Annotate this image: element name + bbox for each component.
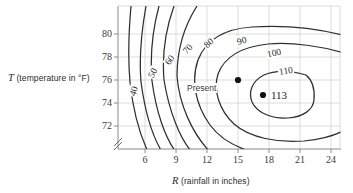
x-tick-label-6: 6 (135, 154, 155, 165)
y-tick-label-74: 74 (94, 97, 112, 108)
x-tick-label-18: 18 (259, 154, 279, 165)
x-axis-units: (rainfall in inches) (179, 176, 250, 186)
x-axis-ticks (145, 149, 331, 153)
y-axis-title: T (temperature in °F) (8, 72, 90, 83)
x-tick-label-21: 21 (290, 154, 310, 165)
y-tick-label-72: 72 (94, 120, 112, 131)
x-axis-title: R (rainfall in inches) (172, 175, 250, 186)
x-tick-label-12: 12 (197, 154, 217, 165)
y-tick-label-78: 78 (94, 51, 112, 62)
x-tick-label-24: 24 (321, 154, 341, 165)
y-axis-ticks (114, 34, 118, 126)
y-tick-label-80: 80 (94, 28, 112, 39)
present-marker-dot (235, 77, 241, 83)
contour-80 (177, 6, 210, 152)
present-point-label: Present (186, 83, 217, 93)
y-axis-units: (temperature in °F) (14, 73, 90, 83)
contour-plot-figure: T (temperature in °F) R (rainfall in inc… (0, 0, 353, 193)
maximum-value-label: 113 (271, 89, 287, 101)
y-tick-label-76: 76 (94, 74, 112, 85)
maximum-marker-dot (260, 92, 266, 98)
x-tick-label-15: 15 (228, 154, 248, 165)
x-tick-label-9: 9 (166, 154, 186, 165)
